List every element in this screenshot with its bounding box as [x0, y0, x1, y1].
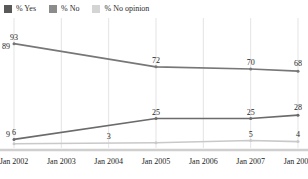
x-axis: Jan 2002Jan 2003Jan 2004Jan 2005Jan 2006… — [0, 157, 308, 177]
data-label: 6 — [12, 128, 16, 137]
data-label: 9 — [6, 130, 10, 139]
data-point[interactable] — [155, 65, 158, 68]
x-tick-label: Jan 2007 — [236, 157, 265, 166]
data-label: 25 — [247, 108, 255, 117]
legend-label-no: % No — [61, 5, 79, 13]
legend-item-no[interactable]: % No — [49, 5, 79, 13]
data-point[interactable] — [155, 117, 158, 120]
x-tick-label: Jan 2004 — [94, 157, 123, 166]
x-tick-label: Jan 2002 — [0, 157, 28, 166]
data-point[interactable] — [13, 42, 16, 45]
data-point[interactable] — [249, 139, 252, 142]
plot-area: 899372706896252528354 — [0, 18, 308, 155]
data-label: 28 — [294, 103, 302, 112]
data-label: 89 — [2, 42, 10, 51]
square-swatch-icon — [49, 5, 57, 13]
legend-item-yes[interactable]: % Yes — [4, 5, 36, 13]
plot-svg: 899372706896252528354 — [0, 18, 308, 155]
data-label: 3 — [107, 132, 111, 141]
data-label: 5 — [249, 130, 253, 139]
square-swatch-icon — [92, 5, 100, 13]
data-point[interactable] — [297, 114, 300, 117]
data-point[interactable] — [249, 68, 252, 71]
data-label: 68 — [294, 59, 302, 68]
data-point[interactable] — [155, 141, 158, 144]
x-tick-label: Jan 2003 — [47, 157, 76, 166]
data-label: 93 — [10, 33, 18, 42]
x-tick-label: Jan 2005 — [142, 157, 171, 166]
data-label: 4 — [296, 130, 300, 139]
data-point[interactable] — [297, 70, 300, 73]
chart-legend: % Yes % No % No opinion — [4, 2, 162, 16]
legend-label-no-opinion: % No opinion — [104, 5, 149, 13]
legend-label-yes: % Yes — [16, 5, 36, 13]
data-point[interactable] — [13, 142, 16, 145]
data-label: 72 — [152, 56, 160, 65]
square-swatch-icon — [4, 5, 12, 13]
data-label: 25 — [152, 108, 160, 117]
line-chart: % Yes % No % No opinion 8993727068962525… — [0, 0, 308, 179]
data-point[interactable] — [297, 140, 300, 143]
data-point[interactable] — [249, 117, 252, 120]
legend-item-no-opinion[interactable]: % No opinion — [92, 5, 149, 13]
data-point[interactable] — [13, 138, 16, 141]
data-label: 70 — [247, 58, 255, 67]
x-tick-label: Jan 2006 — [189, 157, 218, 166]
x-tick-label: Jan 2008 — [284, 157, 308, 166]
